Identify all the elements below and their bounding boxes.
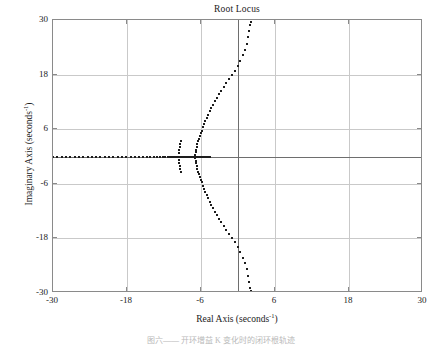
locus-point — [210, 107, 212, 109]
locus-point — [249, 24, 251, 26]
locus-point — [249, 287, 251, 289]
locus-point — [204, 120, 206, 122]
locus-point — [91, 156, 93, 158]
locus-point — [218, 93, 220, 95]
locus-point — [87, 156, 89, 158]
locus-point — [247, 36, 249, 38]
locus-point — [195, 162, 197, 164]
locus-point — [214, 211, 216, 213]
locus-point — [156, 156, 158, 158]
locus-point — [223, 86, 225, 88]
locus-point — [201, 130, 203, 132]
locus-point — [216, 97, 218, 99]
x-axis-tick-top — [274, 20, 275, 24]
y-axis-label: Imaginary Axis (seconds-1) — [23, 39, 35, 269]
gridline-vertical — [349, 20, 350, 291]
locus-point — [117, 156, 119, 158]
y-axis-tick — [53, 183, 57, 184]
locus-point — [210, 204, 212, 206]
gridline-horizontal — [53, 184, 421, 185]
x-tick-label: -18 — [106, 295, 146, 305]
y-axis-tick-right — [417, 128, 421, 129]
x-tick-label: 30 — [402, 295, 442, 305]
locus-point — [220, 90, 222, 92]
locus-point — [237, 246, 239, 248]
plot-area — [52, 19, 422, 292]
page-title: Root Locus — [52, 3, 422, 15]
locus-point — [198, 173, 200, 175]
locus-point — [202, 126, 204, 128]
locus-point — [207, 197, 209, 199]
locus-point — [248, 30, 250, 32]
y-axis-tick-right — [417, 183, 421, 184]
locus-point — [99, 156, 101, 158]
y-axis-label-tail: ) — [24, 102, 34, 105]
locus-point — [197, 140, 199, 142]
locus-point — [178, 159, 180, 161]
locus-point — [200, 132, 202, 134]
locus-point — [199, 135, 201, 137]
locus-point — [220, 221, 222, 223]
locus-point — [196, 165, 198, 167]
locus-point — [244, 49, 246, 51]
locus-point — [180, 140, 182, 142]
x-axis-tick-top — [200, 20, 201, 24]
locus-point — [134, 156, 136, 158]
locus-point — [199, 176, 201, 178]
locus-point — [61, 156, 63, 158]
locus-point — [212, 207, 214, 209]
locus-point — [239, 251, 241, 253]
locus-point — [201, 181, 203, 183]
locus-point — [149, 156, 151, 158]
locus-point — [250, 290, 252, 292]
locus-point — [104, 156, 106, 158]
locus-point — [246, 268, 248, 270]
locus-point — [223, 225, 225, 227]
gridline-horizontal — [53, 238, 421, 239]
locus-point — [209, 156, 211, 158]
locus-point — [142, 156, 144, 158]
locus-point — [179, 146, 181, 148]
y-axis-tick-right — [417, 237, 421, 238]
locus-point — [56, 156, 58, 158]
locus-point — [228, 78, 230, 80]
gridline-vertical — [275, 20, 276, 291]
locus-point — [250, 21, 252, 23]
locus-point — [125, 156, 127, 158]
x-axis-label-text: Real Axis (seconds — [196, 314, 269, 324]
x-axis-tick-top — [348, 20, 349, 24]
locus-point — [202, 185, 204, 187]
locus-point — [112, 156, 114, 158]
x-axis-tick — [126, 287, 127, 291]
locus-point — [239, 60, 241, 62]
x-axis-label-tail: ) — [275, 314, 278, 324]
locus-point — [234, 70, 236, 72]
x-tick-label: -6 — [180, 295, 220, 305]
locus-point — [203, 123, 205, 125]
locus-point — [246, 43, 248, 45]
gridline-horizontal — [53, 129, 421, 130]
locus-point — [65, 156, 67, 158]
x-axis-tick — [348, 287, 349, 291]
locus-point — [234, 241, 236, 243]
locus-point — [228, 233, 230, 235]
y-tick-label: 30 — [14, 14, 48, 24]
locus-point — [206, 117, 208, 119]
locus-point — [52, 156, 54, 158]
figure-caption: 图六—— 开环增益 K 变化时的闭环根轨迹 — [0, 336, 442, 345]
locus-point — [248, 281, 250, 283]
locus-point — [231, 74, 233, 76]
x-axis-label: Real Axis (seconds-1) — [52, 313, 422, 325]
locus-point — [204, 191, 206, 193]
locus-point — [196, 143, 198, 145]
locus-point — [216, 214, 218, 216]
locus-point — [82, 156, 84, 158]
locus-point — [214, 100, 216, 102]
x-axis-tick — [200, 287, 201, 291]
locus-point — [206, 194, 208, 196]
locus-point — [179, 143, 181, 145]
x-tick-label: 18 — [328, 295, 368, 305]
x-tick-label: 6 — [254, 295, 294, 305]
locus-point — [195, 151, 197, 153]
locus-point — [200, 179, 202, 181]
